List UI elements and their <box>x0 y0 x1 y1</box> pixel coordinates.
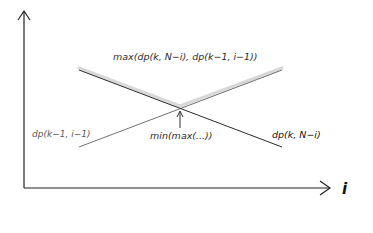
x-axis-label: i <box>342 180 348 198</box>
descending-label: dp(k, N−i) <box>272 129 321 140</box>
ascending-label: dp(k−1, i−1) <box>32 129 90 139</box>
max-label: max(dp(k, N−i), dp(k−1, i−1)) <box>113 51 258 62</box>
diagram-canvas: max(dp(k, N−i), dp(k−1, i−1)) dp(k−1, i−… <box>0 0 373 233</box>
intersection-label: min(max(...)) <box>150 130 213 141</box>
max-envelope-highlight <box>79 68 282 106</box>
